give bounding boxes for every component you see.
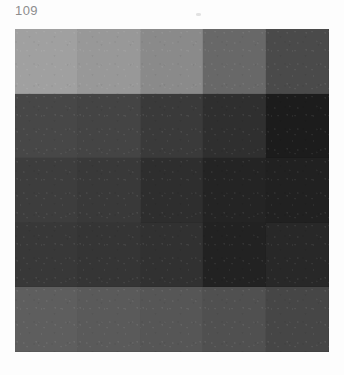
swatch-r5c4	[203, 287, 266, 352]
swatch-r1c5	[266, 29, 329, 94]
swatch-r2c2	[78, 94, 141, 159]
swatch-r4c3	[141, 223, 204, 288]
swatch-r1c2	[78, 29, 141, 94]
swatch-r1c3	[141, 29, 204, 94]
swatch-r4c1	[15, 223, 78, 288]
swatch-r3c3	[141, 158, 204, 223]
swatch-r3c4	[203, 158, 266, 223]
swatch-r4c5	[266, 223, 329, 288]
swatch-r1c1	[15, 29, 78, 94]
page-number: 109	[15, 3, 38, 19]
swatch-r2c4	[203, 94, 266, 159]
swatch-r3c5	[266, 158, 329, 223]
swatch-r2c5	[266, 94, 329, 159]
swatch-r3c2	[78, 158, 141, 223]
swatch-r2c1	[15, 94, 78, 159]
swatch-r2c3	[141, 94, 204, 159]
swatch-r5c5	[266, 287, 329, 352]
swatch-r1c4	[203, 29, 266, 94]
grayscale-swatch-grid	[15, 29, 329, 352]
swatch-r5c2	[78, 287, 141, 352]
paper-speck-artifact	[196, 13, 201, 16]
swatch-r3c1	[15, 158, 78, 223]
swatch-r5c3	[141, 287, 204, 352]
swatch-r4c2	[78, 223, 141, 288]
swatch-r4c4	[203, 223, 266, 288]
swatch-r5c1	[15, 287, 78, 352]
